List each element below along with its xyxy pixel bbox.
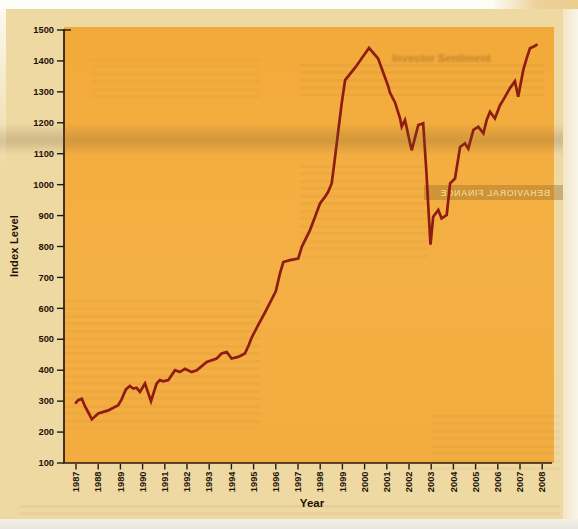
y-tick-label: 100 <box>38 458 54 468</box>
page-edge-right <box>563 9 578 520</box>
y-tick-label: 1000 <box>33 180 54 190</box>
bleed-through-paragraph <box>300 64 544 96</box>
page-edge-top <box>0 0 578 9</box>
x-tick-label: 2003 <box>426 472 436 493</box>
x-tick-label: 2000 <box>360 472 370 493</box>
x-tick-label: 1998 <box>315 472 325 493</box>
textbook-page: Investor Sentiment BEHAVIORAL FINANCE 10… <box>0 0 578 529</box>
y-tick-label: 900 <box>38 211 54 221</box>
y-tick-label: 800 <box>38 242 54 252</box>
bleed-through-paragraph <box>432 415 560 473</box>
x-tick-label: 2004 <box>449 471 459 493</box>
x-tick-label: 1997 <box>293 472 303 493</box>
y-tick-label: 200 <box>38 427 54 437</box>
y-tick-label: 1300 <box>33 87 54 97</box>
x-tick-label: 1991 <box>160 472 170 493</box>
page-edge-left <box>0 0 6 170</box>
bleed-through-paragraph <box>92 58 260 98</box>
x-axis-title: Year <box>262 497 362 509</box>
y-tick-label: 500 <box>38 334 54 344</box>
y-tick-label: 1400 <box>33 56 54 66</box>
x-tick-label: 1990 <box>138 472 148 493</box>
y-tick-label: 400 <box>38 365 54 375</box>
x-tick-label: 1995 <box>249 472 259 493</box>
page-edge-bottom <box>0 519 578 529</box>
x-tick-label: 2005 <box>471 472 481 493</box>
x-tick-label: 1993 <box>204 472 214 493</box>
bleed-through-banner-text: BEHAVIORAL FINANCE <box>440 188 550 198</box>
bleed-through-banner: BEHAVIORAL FINANCE <box>424 185 566 200</box>
x-tick-label: 2002 <box>404 472 414 493</box>
y-tick-label: 300 <box>38 396 54 406</box>
x-tick-label: 2001 <box>382 472 392 493</box>
x-tick-label: 1999 <box>338 472 348 493</box>
x-tick-label: 1992 <box>182 472 192 493</box>
x-tick-label: 1988 <box>93 472 103 493</box>
bleed-through-paragraph <box>300 165 428 261</box>
x-tick-label: 2008 <box>537 472 547 493</box>
x-tick-label: 1989 <box>116 472 126 493</box>
x-tick-label: 2007 <box>515 472 525 493</box>
scan-artifact-band <box>0 123 578 155</box>
x-tick-label: 1987 <box>71 472 81 493</box>
x-tick-label: 2006 <box>493 472 503 493</box>
bleed-through-heading: Investor Sentiment <box>392 52 522 64</box>
x-tick-label: 1996 <box>271 472 281 493</box>
y-axis-title: Index Level <box>8 195 20 297</box>
x-tick-label: 1994 <box>227 471 237 493</box>
y-tick-label: 700 <box>38 273 54 283</box>
bleed-through-paragraph <box>62 300 260 428</box>
y-tick-label: 600 <box>38 304 54 314</box>
y-tick-label: 1500 <box>33 25 54 35</box>
